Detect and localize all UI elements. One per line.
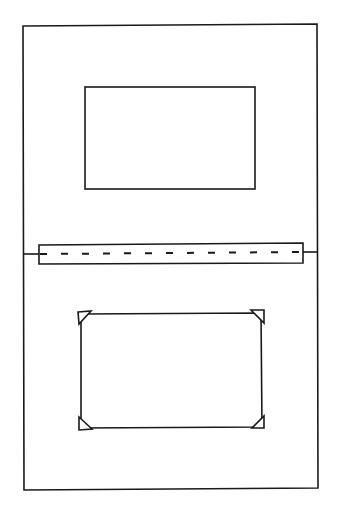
mounted-photo (78, 310, 264, 430)
corner-mount-bottom-right (252, 416, 264, 428)
corner-mount-bottom-left (79, 417, 92, 430)
outer-frame (23, 24, 318, 490)
hinge-strip (23, 243, 318, 264)
photo-outline (81, 313, 262, 428)
hinge-fold-line (40, 252, 302, 254)
corner-mount-top-left (78, 311, 91, 324)
top-window (85, 87, 255, 189)
corner-mount-top-right (251, 310, 264, 323)
hinged-frame-diagram (0, 0, 341, 506)
